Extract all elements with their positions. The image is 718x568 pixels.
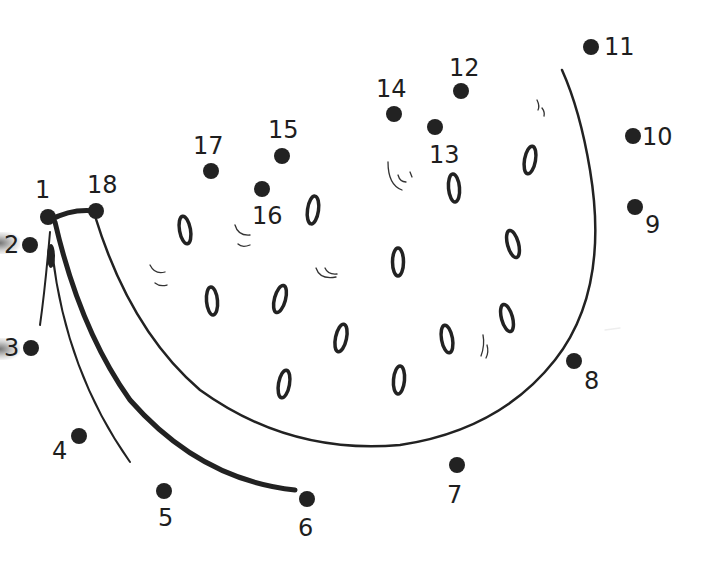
dot-number-label: 18 — [87, 171, 118, 199]
dot-marker[interactable] — [22, 237, 38, 253]
dot-marker[interactable] — [23, 340, 39, 356]
dot-marker[interactable] — [386, 106, 402, 122]
dot-marker[interactable] — [566, 353, 582, 369]
dot-marker[interactable] — [453, 83, 469, 99]
seed-5 — [205, 287, 218, 316]
seed-8 — [504, 229, 522, 259]
rind-outer-line — [52, 250, 130, 462]
watermelon-outline — [40, 70, 595, 490]
dot-number-label: 5 — [158, 504, 173, 532]
dot-marker[interactable] — [449, 457, 465, 473]
dot-number-label: 6 — [298, 514, 313, 542]
dot-4[interactable]: 4 — [52, 428, 87, 465]
dot-16[interactable]: 16 — [252, 181, 283, 230]
seed-6 — [271, 284, 289, 314]
dot-18[interactable]: 18 — [87, 171, 118, 219]
dot-marker[interactable] — [627, 199, 643, 215]
dot-number-label: 11 — [604, 33, 635, 61]
rind-left-line — [40, 232, 50, 325]
seed-group — [177, 145, 538, 398]
dot-1[interactable]: 1 — [35, 176, 56, 225]
dot-6[interactable]: 6 — [298, 491, 315, 542]
dot-number-label: 15 — [268, 116, 299, 144]
dot-marker[interactable] — [583, 39, 599, 55]
dot-12[interactable]: 12 — [449, 54, 480, 99]
watermelon-drawing: 123456789101112131415161718 — [0, 0, 718, 568]
dot-marker[interactable] — [625, 128, 641, 144]
seed-1 — [177, 215, 193, 244]
seed-13 — [392, 366, 405, 395]
dot-9[interactable]: 9 — [627, 199, 660, 239]
seed-2 — [306, 195, 321, 224]
dot-number-label: 2 — [4, 231, 19, 259]
dot-number-label: 12 — [449, 54, 480, 82]
dot-marker[interactable] — [156, 483, 172, 499]
seed-12 — [276, 369, 292, 398]
seed-7 — [393, 248, 404, 276]
seed-3 — [447, 174, 460, 203]
rind-blob — [47, 244, 55, 268]
dot-number-label: 4 — [52, 437, 67, 465]
dot-7[interactable]: 7 — [447, 457, 465, 509]
dot-14[interactable]: 14 — [376, 75, 407, 122]
dot-marker[interactable] — [254, 181, 270, 197]
seed-11 — [498, 303, 516, 333]
dot-number-label: 9 — [645, 211, 660, 239]
seed-10 — [439, 324, 455, 353]
dot-number-label: 3 — [4, 334, 19, 362]
dot-marker[interactable] — [427, 119, 443, 135]
dot-marker[interactable] — [299, 491, 315, 507]
seed-9 — [333, 323, 350, 353]
dot-marker[interactable] — [71, 428, 87, 444]
dot-marker[interactable] — [40, 209, 56, 225]
dot-marker[interactable] — [274, 148, 290, 164]
dot-number-label: 10 — [642, 123, 673, 151]
dot-11[interactable]: 11 — [583, 33, 635, 61]
dot-17[interactable]: 17 — [193, 132, 224, 179]
dot-to-dot-worksheet: 123456789101112131415161718 — [0, 0, 718, 568]
dot-number-label: 14 — [376, 75, 407, 103]
dot-number-label: 1 — [35, 176, 50, 204]
dot-number-label: 17 — [193, 132, 224, 160]
inner-flesh-arc — [95, 70, 595, 446]
dot-8[interactable]: 8 — [566, 353, 599, 395]
numbered-dots: 123456789101112131415161718 — [4, 33, 673, 542]
rind-thick-line — [55, 222, 295, 490]
dot-3[interactable]: 3 — [4, 334, 39, 362]
dot-13[interactable]: 13 — [427, 119, 460, 169]
dot-number-label: 16 — [252, 202, 283, 230]
dot-number-label: 8 — [584, 367, 599, 395]
dot-number-label: 7 — [447, 481, 462, 509]
dot-marker[interactable] — [203, 163, 219, 179]
seed-4 — [522, 145, 538, 174]
dot-10[interactable]: 10 — [625, 123, 673, 151]
dot-marker[interactable] — [88, 203, 104, 219]
dot-number-label: 13 — [429, 141, 460, 169]
dot-15[interactable]: 15 — [268, 116, 299, 164]
dot-2[interactable]: 2 — [4, 231, 38, 259]
dot-5[interactable]: 5 — [156, 483, 173, 532]
